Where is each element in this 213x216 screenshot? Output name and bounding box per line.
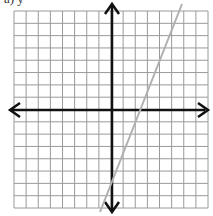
x-axis <box>10 103 208 117</box>
coordinate-grid <box>0 0 213 216</box>
